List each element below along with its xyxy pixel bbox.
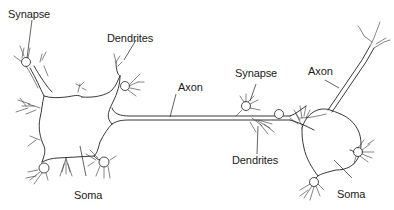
label-synapse-right: Synapse xyxy=(235,67,277,79)
label-axon-right: Axon xyxy=(308,65,333,77)
axon-terminals xyxy=(236,94,326,134)
label-leader-lines xyxy=(27,20,352,178)
right-neuron xyxy=(290,22,390,200)
neuron-illustration xyxy=(0,0,394,210)
neuron-diagram: Synapse Dendrites Axon Soma Synapse Axon… xyxy=(0,0,394,210)
label-dendrites-left: Dendrites xyxy=(107,32,153,44)
label-synapse-left: Synapse xyxy=(8,8,50,20)
label-soma-right: Soma xyxy=(337,188,365,200)
label-axon-middle: Axon xyxy=(178,81,203,93)
label-soma-left: Soma xyxy=(74,189,102,201)
label-dendrites-right: Dendrites xyxy=(232,154,278,166)
